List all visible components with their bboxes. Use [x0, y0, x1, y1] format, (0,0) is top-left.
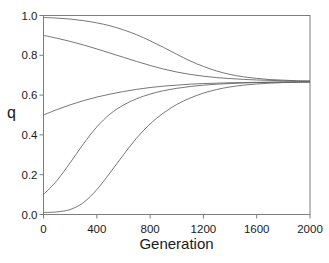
y-tick-label: 0.2 [22, 169, 38, 181]
y-tick-label: 0.0 [22, 209, 38, 221]
y-tick-label: 0.4 [22, 129, 39, 141]
trajectory-curve-q0-0.01 [44, 82, 311, 213]
y-tick-label: 0.6 [22, 89, 38, 101]
trajectory-curve-q0-0.99 [44, 17, 311, 80]
x-tick-label: 400 [87, 223, 106, 235]
x-axis-title: Generation [43, 236, 310, 251]
allele-frequency-chart: 0.00.20.40.60.81.00400800120016002000 q … [0, 0, 329, 263]
x-tick-label: 0 [40, 223, 46, 235]
x-tick-label: 2000 [297, 223, 323, 235]
chart-plot-area: 0.00.20.40.60.81.00400800120016002000 [0, 0, 329, 263]
trajectory-curve-q0-0.9 [44, 35, 311, 81]
y-tick-label: 1.0 [22, 10, 38, 22]
trajectory-curve-q0-0.1 [44, 82, 311, 195]
x-tick-label: 800 [141, 223, 160, 235]
y-tick-label: 0.8 [22, 49, 38, 61]
x-tick-label: 1200 [191, 223, 217, 235]
trajectory-curve-q0-0.5 [44, 82, 311, 115]
y-axis-title: q [7, 105, 16, 121]
x-tick-label: 1600 [244, 223, 270, 235]
